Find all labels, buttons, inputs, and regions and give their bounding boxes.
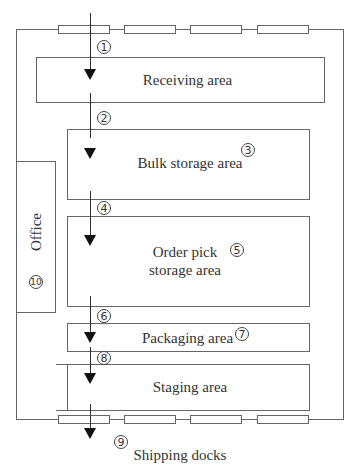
flow-line-3 [90, 191, 91, 241]
arrow-down-icon [84, 69, 96, 80]
shipping-dock-2 [124, 415, 176, 424]
bulk-storage-label: Bulk storage area [125, 154, 255, 172]
step-1-badge: 1 [97, 40, 111, 54]
receiving-dock-1 [58, 25, 110, 34]
shipping-dock-1 [58, 415, 110, 424]
step-8-badge: 8 [97, 351, 111, 365]
receiving-dock-2 [124, 25, 176, 34]
arrow-down-icon [84, 332, 96, 343]
arrow-down-icon [84, 148, 96, 159]
flow-line-5 [90, 347, 91, 373]
shipping-dock-3 [190, 415, 242, 424]
step-4-badge: 4 [97, 201, 111, 215]
step-9-badge: 9 [114, 435, 128, 449]
receiving-dock-4 [257, 25, 309, 34]
step-7-badge: 7 [235, 327, 249, 341]
shipping-dock-4 [257, 415, 309, 424]
step-5-badge: 5 [230, 243, 244, 257]
flow-line-4 [90, 296, 91, 332]
step-6-badge: 6 [97, 309, 111, 323]
step-3-badge: 3 [241, 143, 255, 157]
arrow-down-icon [84, 235, 96, 246]
packaging-label: Packaging area [135, 329, 240, 347]
receiving-dock-3 [190, 25, 242, 34]
arrow-down-icon [84, 373, 96, 384]
flow-line-1 [90, 13, 91, 73]
step-10-badge: 10 [29, 275, 43, 289]
arrow-down-icon [84, 428, 96, 439]
receiving-area-label: Receiving area [120, 71, 255, 89]
order-pick-label-line2: storage area [130, 261, 240, 279]
flow-line-2 [90, 93, 91, 138]
office-label: Office [27, 202, 45, 262]
staging-label: Staging area [140, 378, 240, 396]
order-pick-label-line1: Order pick [130, 243, 240, 261]
step-2-badge: 2 [97, 111, 111, 125]
shipping-docks-label: Shipping docks [130, 446, 230, 464]
staging-bottom-line [56, 410, 68, 411]
